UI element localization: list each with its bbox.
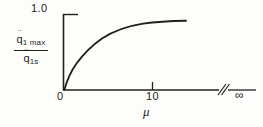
denominator-dot-accent: ·· — [24, 48, 29, 52]
numerator-symbol: q — [17, 33, 23, 45]
numerator-dot-accent: ·· — [17, 29, 22, 33]
numerator-variable: ·· q — [17, 33, 23, 46]
data-curve — [65, 21, 187, 90]
y-axis-title: ·· q 1 max ·· q 1s — [8, 33, 54, 68]
fraction-bar — [14, 50, 48, 51]
y-axis-denominator: ·· q 1s — [8, 52, 54, 68]
denominator-symbol: q — [24, 52, 30, 64]
x-tick-label-infinity: ∞ — [235, 89, 244, 101]
denominator-variable: ·· q — [24, 52, 30, 65]
y-tick-label-1point0: 1.0 — [31, 2, 48, 14]
figure-container: 1.0 0 10 ∞ μ ·· q 1 max ·· q 1s — [0, 0, 263, 127]
y-axis-numerator: ·· q 1 max — [8, 33, 54, 49]
x-axis-title: μ — [143, 104, 150, 120]
x-tick-label-10: 10 — [146, 90, 159, 102]
denominator-subscript: 1s — [30, 57, 39, 66]
x-tick-label-0: 0 — [57, 90, 64, 102]
